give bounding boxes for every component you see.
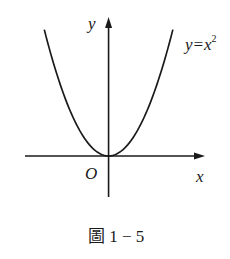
curve-label: y=x2 [183,33,217,54]
y-axis-arrow-icon [105,17,112,28]
y-axis-label: y [86,14,96,33]
x-axis-arrow-icon [194,152,205,159]
origin-label: O [85,164,97,183]
figure-caption: 圖 1 − 5 [88,227,144,246]
curve-label-exponent: 2 [212,33,217,44]
parabola-diagram: y x O y=x2 圖 1 − 5 [0,0,230,259]
curve-label-base: y=x [183,35,212,54]
x-axis-label: x [195,167,204,186]
